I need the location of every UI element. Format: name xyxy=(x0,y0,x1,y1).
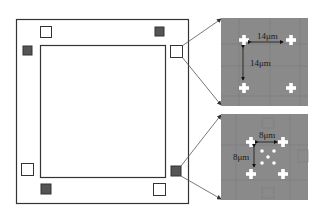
marker-top-right xyxy=(155,27,164,36)
marker-top-left xyxy=(41,27,52,38)
zoom-panel-bottom: 8μm 8μm xyxy=(221,114,308,200)
vertical-dimension-label: 14μm xyxy=(250,58,271,68)
marker-right-upper xyxy=(171,46,183,58)
zoom-panel-top: 14μm 14μm xyxy=(221,18,308,106)
inner-square xyxy=(41,46,166,178)
horizontal-dimension-label: 14μm xyxy=(257,31,278,41)
horizontal-dimension-label: 8μm xyxy=(259,130,275,140)
marker-bottom-left xyxy=(41,184,51,194)
alignment-mark-diagram: 14μm 14μm 8μm 8μm xyxy=(0,0,324,219)
vertical-dimension-label: 8μm xyxy=(233,152,249,162)
marker-right-lower xyxy=(171,166,181,176)
chip-schematic xyxy=(17,20,189,204)
marker-bottom-right xyxy=(154,184,166,196)
marker-left-upper xyxy=(23,46,32,55)
marker-left-lower xyxy=(22,164,34,176)
